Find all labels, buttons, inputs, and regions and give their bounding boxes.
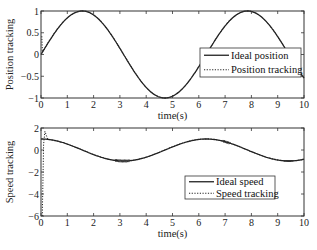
x-tick-label: 7 <box>223 99 228 110</box>
axes-box <box>41 128 304 216</box>
legend-entry: Position tracking <box>231 64 303 75</box>
y-tick-label: 1 <box>34 6 39 17</box>
figure: 01234567891010.50−0.5−1time(s)Position t… <box>0 0 317 250</box>
y-tick-label: −6 <box>28 211 39 222</box>
legend-entry: Ideal position <box>231 50 289 61</box>
x-tick-label: 1 <box>65 217 70 228</box>
x-axis-label: time(s) <box>158 110 188 122</box>
x-tick-label: 4 <box>144 217 149 228</box>
y-axis-label: Position tracking <box>4 18 15 90</box>
legend: Ideal speedSpeed tracking <box>185 176 279 199</box>
x-tick-label: 10 <box>299 99 309 110</box>
x-tick-label: 6 <box>196 217 201 228</box>
y-tick-label: 0.5 <box>27 27 40 38</box>
x-tick-label: 9 <box>275 217 280 228</box>
legend: Ideal positionPosition tracking <box>200 48 303 77</box>
speed-plot: 01234567891020−2−4−6time(s)Speed trackin… <box>4 123 309 241</box>
x-tick-label: 3 <box>117 99 122 110</box>
y-axis-label: Speed tracking <box>4 140 15 203</box>
x-tick-label: 5 <box>170 217 175 228</box>
x-tick-label: 7 <box>223 217 228 228</box>
x-tick-label: 4 <box>144 99 149 110</box>
y-tick-label: 0 <box>34 49 39 60</box>
y-tick-label: −1 <box>28 93 39 104</box>
legend-entry: Ideal speed <box>216 176 264 187</box>
y-tick-label: −0.5 <box>21 71 39 82</box>
x-tick-label: 9 <box>275 99 280 110</box>
x-tick-label: 8 <box>249 217 254 228</box>
y-tick-label: 0 <box>34 145 39 156</box>
ideal-speed-line <box>41 139 304 161</box>
x-tick-label: 8 <box>249 99 254 110</box>
position-plot: 01234567891010.50−0.5−1time(s)Position t… <box>4 6 309 123</box>
x-tick-label: 10 <box>299 217 309 228</box>
x-tick-label: 6 <box>196 99 201 110</box>
x-tick-label: 0 <box>39 217 44 228</box>
x-tick-label: 1 <box>65 99 70 110</box>
y-tick-label: −4 <box>28 189 39 200</box>
x-tick-label: 5 <box>170 99 175 110</box>
x-tick-label: 2 <box>91 217 96 228</box>
x-tick-label: 2 <box>91 99 96 110</box>
x-tick-label: 3 <box>117 217 122 228</box>
x-axis-label: time(s) <box>158 228 188 240</box>
legend-entry: Speed tracking <box>216 188 279 199</box>
y-tick-label: 2 <box>34 123 39 134</box>
speed-tracking-line <box>42 131 304 216</box>
y-tick-label: −2 <box>28 167 39 178</box>
x-tick-label: 0 <box>39 99 44 110</box>
